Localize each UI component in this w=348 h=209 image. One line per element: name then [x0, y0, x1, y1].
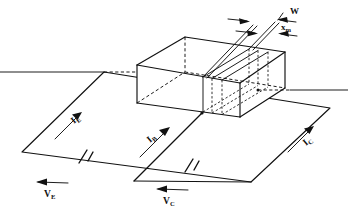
dimension-w-symbol: W — [290, 6, 299, 16]
base-current-arrowhead — [159, 127, 170, 136]
base-current-label: IB — [145, 131, 159, 145]
dimension-w-label: W — [290, 6, 299, 16]
junction-guide-line-d — [253, 23, 279, 50]
dimension-xm: xm — [236, 22, 297, 37]
collector-voltage-subscript: C — [170, 200, 175, 207]
base-lead-bottom-segment — [134, 181, 251, 182]
base-current-arrow: IB — [140, 127, 170, 157]
battery-collector — [185, 159, 199, 172]
collector-voltage-label-group: VC — [156, 186, 188, 208]
collector-voltage-arrowhead — [156, 186, 167, 193]
dimension-xm-subscript: m — [286, 26, 292, 33]
base-contact-node — [200, 111, 203, 114]
battery-collector-short-plate — [194, 161, 199, 170]
emitter-voltage-arrowhead — [36, 179, 47, 186]
emitter-lead — [0, 71, 159, 76]
battery-collector-long-plate — [185, 159, 193, 172]
emitter-voltage-subscript: E — [51, 193, 56, 200]
semiconductor-slab — [137, 37, 285, 117]
dimension-xm-label: xm — [281, 22, 292, 33]
emitter-voltage-label-group: VE — [36, 179, 68, 201]
battery-emitter-short-plate — [88, 152, 93, 161]
transistor-structure-diagram: IE IB IC — [0, 0, 348, 209]
collector-contact-node — [257, 89, 260, 92]
collector-current-arrow: IC — [288, 126, 315, 152]
battery-emitter-long-plate — [79, 150, 87, 163]
dimension-w: W — [228, 6, 299, 24]
junction-guide-line-c — [249, 22, 275, 49]
dimension-w-left-arrowhead — [239, 18, 250, 24]
collector-voltage-label: VC — [163, 196, 175, 207]
emitter-voltage-label: VE — [44, 189, 56, 200]
figure-root: IE IB IC — [0, 0, 348, 209]
base-lead — [134, 111, 251, 182]
